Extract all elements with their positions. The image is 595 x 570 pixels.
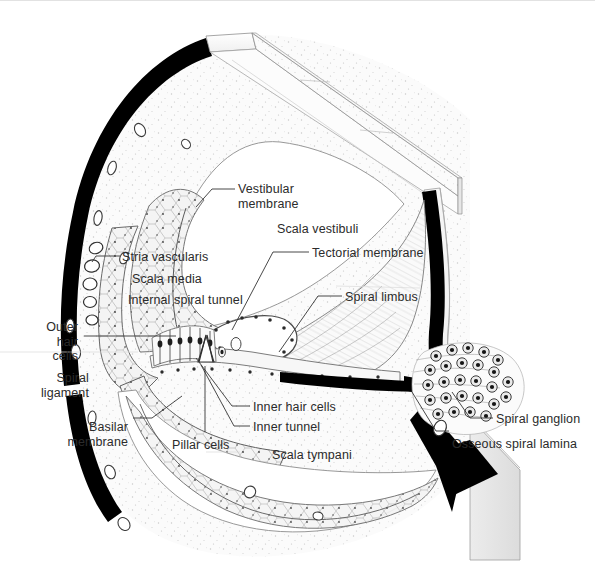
label-spiral-limbus: Spiral limbus (345, 290, 418, 305)
leader-spiral-ganglion (452, 392, 493, 418)
leader-stria-vascularis (92, 256, 120, 262)
leader-osseous-spiral-lamina (412, 392, 449, 431)
label-vestibular-membrane: Vestibular membrane (238, 182, 299, 211)
leader-inner-hair-cells (196, 358, 250, 406)
label-internal-spiral-tunnel: Internal spiral tunnel (128, 293, 243, 308)
label-osseous-spiral-lamina: Osseous spiral lamina (452, 437, 577, 452)
label-spiral-ligament: Spiral ligament (27, 371, 89, 400)
label-inner-tunnel: Inner tunnel (253, 420, 320, 435)
label-scala-vestibuli: Scala vestibuli (277, 222, 358, 237)
cochlea-cross-section-figure: Vestibular membraneScala vestibuliTector… (0, 0, 595, 570)
leader-basilar-membrane (133, 396, 182, 418)
leader-lines-layer (0, 0, 595, 570)
label-basilar-membrane: Basilar membrane (50, 420, 128, 449)
label-outer-hair-cells: Outer hair cells (22, 320, 78, 364)
leader-spiral-limbus (279, 296, 342, 352)
label-tectorial-membrane: Tectorial membrane (312, 246, 424, 261)
label-pillar-cells: Pillar cells (172, 438, 229, 453)
label-scala-media: Scala media (132, 272, 202, 287)
label-inner-hair-cells: Inner hair cells (253, 400, 336, 415)
label-stria-vascularis: Stria vascularis (122, 250, 208, 265)
leader-tectorial-membrane (232, 252, 309, 330)
leader-vestibular-membrane (196, 189, 235, 207)
label-scala-tympani: Scala tympani (272, 448, 352, 463)
label-spiral-ganglion: Spiral ganglion (496, 412, 580, 427)
